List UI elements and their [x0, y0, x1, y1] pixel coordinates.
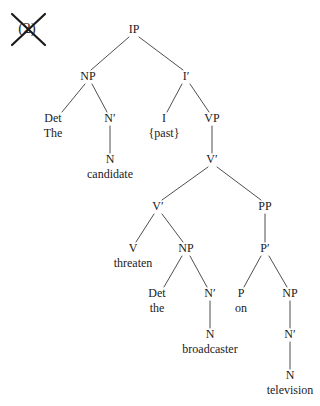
node-ip: IP — [129, 22, 140, 36]
branch-vbar-np-object — [162, 214, 183, 242]
node-v-bar-upper: V′ — [206, 152, 218, 166]
terminal-the-subject: The — [44, 126, 63, 140]
crossed-out-example-marker: (2) — [12, 14, 45, 45]
branch-ip-ibar — [139, 37, 183, 70]
node-v-bar-lower: V′ — [152, 199, 164, 213]
node-n-subject: N — [106, 152, 115, 166]
node-n-bar-subject: N′ — [104, 111, 116, 125]
tree-branches — [62, 37, 290, 369]
syntax-tree-canvas: IP NP I′ Det N′ I VP N V′ V′ PP V NP P′ … — [0, 0, 320, 406]
node-np-object: NP — [178, 241, 194, 255]
node-n-prepositional: N — [286, 368, 295, 382]
terminal-the-object: the — [150, 301, 165, 315]
terminal-on: on — [235, 301, 247, 315]
node-np-prepositional: NP — [282, 286, 298, 300]
branch-vbar-pp — [217, 167, 261, 200]
node-n-object: N — [206, 327, 215, 341]
branch-npobj-nbar — [190, 256, 207, 287]
branch-ibar-vp — [190, 84, 209, 112]
tree-node-labels: IP NP I′ Det N′ I VP N V′ V′ PP V NP P′ … — [44, 22, 298, 382]
branch-np-nbar — [92, 84, 107, 112]
node-det-subject: Det — [44, 111, 62, 125]
node-v: V — [129, 241, 138, 255]
node-i-bar: I′ — [183, 69, 190, 83]
branch-pbar-p — [244, 256, 261, 287]
node-i: I — [162, 111, 166, 125]
node-p: P — [238, 286, 245, 300]
node-n-bar-prepositional: N′ — [284, 327, 296, 341]
branch-vbar-vbar — [162, 167, 208, 200]
terminal-candidate: candidate — [87, 167, 133, 181]
node-vp: VP — [204, 111, 220, 125]
terminal-past: {past} — [149, 126, 180, 140]
terminal-television: television — [267, 383, 314, 397]
syntax-tree-figure: IP NP I′ Det N′ I VP N V′ V′ PP V NP P′ … — [0, 0, 320, 406]
branch-vbar-v — [136, 214, 154, 242]
branch-npobj-det — [164, 256, 182, 287]
node-pp: PP — [258, 199, 272, 213]
node-p-bar: P′ — [260, 241, 270, 255]
terminal-broadcaster: broadcaster — [182, 342, 237, 356]
branch-np-det — [62, 84, 85, 112]
node-np-subject: NP — [80, 69, 96, 83]
node-det-object: Det — [148, 286, 166, 300]
branch-pbar-np — [269, 256, 287, 287]
branch-ip-np — [91, 37, 129, 70]
terminal-threaten: threaten — [114, 256, 153, 270]
node-n-bar-object: N′ — [204, 286, 216, 300]
branch-ibar-i — [167, 84, 182, 112]
